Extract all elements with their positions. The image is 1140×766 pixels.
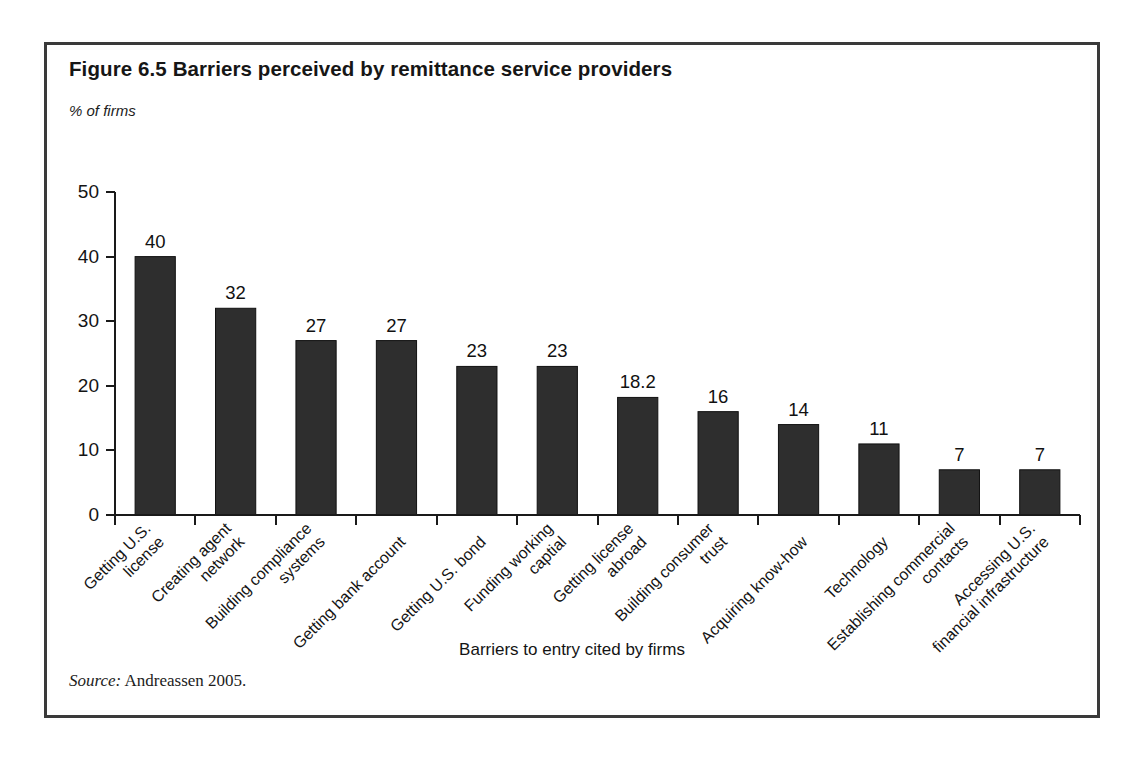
page-title: Figure 6.5 Barriers perceived by remitta… — [69, 57, 672, 81]
bar — [618, 397, 658, 515]
bar-value-label: 18.2 — [620, 371, 656, 392]
bar — [376, 341, 416, 515]
bar — [1020, 470, 1060, 515]
bar — [939, 470, 979, 515]
bar — [698, 412, 738, 515]
bar-value-label: 11 — [869, 418, 888, 439]
bar-value-label: 16 — [708, 386, 729, 407]
source-keyword: Source: — [69, 671, 121, 690]
x-axis — [115, 515, 1080, 525]
bar-value-label: 14 — [788, 399, 809, 420]
bars-group: 40322727232318.216141177 — [135, 231, 1060, 515]
y-axis-tick-label: 40 — [78, 246, 99, 267]
y-axis: 01020304050 — [78, 181, 115, 525]
bar — [296, 341, 336, 515]
bar-value-label: 7 — [954, 444, 964, 465]
y-axis-tick-label: 10 — [78, 439, 99, 460]
bar — [537, 366, 577, 515]
bar-value-label: 7 — [1035, 444, 1045, 465]
y-axis-tick-label: 0 — [88, 504, 99, 525]
figure-page: Figure 6.5 Barriers perceived by remitta… — [0, 0, 1140, 766]
bar-value-label: 40 — [145, 231, 166, 252]
bar — [859, 444, 899, 515]
figure-frame: Figure 6.5 Barriers perceived by remitta… — [44, 42, 1100, 718]
bar-value-label: 27 — [386, 315, 407, 336]
y-axis-tick-label: 50 — [78, 181, 99, 202]
bar-value-label: 32 — [225, 282, 246, 303]
bar-value-label: 23 — [467, 340, 488, 361]
source-citation: Andreassen 2005. — [121, 671, 246, 690]
bar-chart: 01020304050 40322727232318.216141177 Get… — [47, 97, 1097, 677]
bar — [135, 257, 175, 515]
source-note: Source: Andreassen 2005. — [69, 671, 246, 691]
bar-value-label: 27 — [306, 315, 327, 336]
bar-value-label: 23 — [547, 340, 568, 361]
y-axis-tick-label: 30 — [78, 310, 99, 331]
bar — [457, 366, 497, 515]
bar — [778, 425, 818, 515]
y-axis-tick-label: 20 — [78, 375, 99, 396]
x-axis-title: Barriers to entry cited by firms — [459, 640, 685, 659]
chart-canvas: 01020304050 40322727232318.216141177 Get… — [47, 97, 1097, 677]
bar — [216, 308, 256, 515]
